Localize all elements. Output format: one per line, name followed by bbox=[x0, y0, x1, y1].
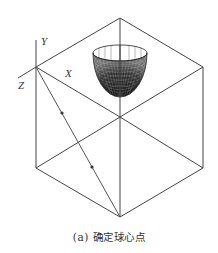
y-axis-label: Y bbox=[41, 35, 47, 47]
z-axis bbox=[18, 67, 36, 78]
figure-caption: (a) 确定球心点 bbox=[0, 229, 218, 244]
cube-diagram: Y X Z bbox=[0, 0, 218, 253]
cube-svg bbox=[0, 0, 218, 253]
hemisphere-mesh bbox=[93, 45, 147, 98]
diagonal-point-1 bbox=[60, 111, 63, 114]
diagonal-point-2 bbox=[90, 165, 93, 168]
z-axis-label: Z bbox=[18, 79, 24, 91]
coordinate-axes bbox=[18, 40, 36, 78]
x-axis-label: X bbox=[65, 67, 72, 79]
